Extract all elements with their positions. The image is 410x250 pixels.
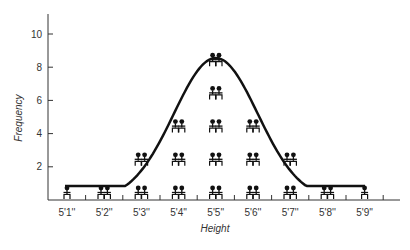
pair-of-people-icon xyxy=(246,152,259,165)
pair-of-people-icon xyxy=(135,186,148,199)
y-ticks: 246810 xyxy=(31,29,53,173)
x-tick-label: 5'6'' xyxy=(245,207,262,218)
y-tick-label: 2 xyxy=(36,161,42,172)
x-tick-label: 5'3'' xyxy=(133,207,150,218)
x-tick-label: 5'4'' xyxy=(170,207,187,218)
pair-of-people-icon xyxy=(172,119,185,132)
pictogram-icons xyxy=(64,53,369,199)
x-tick-label: 5'8'' xyxy=(319,207,336,218)
x-tick-label: 5'9'' xyxy=(356,207,373,218)
pair-of-people-icon xyxy=(284,186,297,199)
y-axis-label: Frequency xyxy=(13,93,24,141)
y-tick-label: 10 xyxy=(31,29,43,40)
pair-of-people-icon xyxy=(172,152,185,165)
x-tick-label: 5'7'' xyxy=(282,207,299,218)
pair-of-people-icon xyxy=(209,152,222,165)
y-tick-label: 4 xyxy=(36,128,42,139)
pair-of-people-icon xyxy=(209,119,222,132)
pair-of-people-icon xyxy=(246,186,259,199)
x-ticks: 5'1''5'2''5'3''5'4''5'5''5'6''5'7''5'8''… xyxy=(59,195,384,218)
pair-of-people-icon xyxy=(321,186,334,199)
x-axis-label: Height xyxy=(201,223,231,234)
y-tick-label: 8 xyxy=(36,62,42,73)
x-tick-label: 5'2'' xyxy=(96,207,113,218)
distribution-curve xyxy=(65,58,365,186)
pair-of-people-icon xyxy=(209,186,222,199)
x-tick-label: 5'1'' xyxy=(59,207,76,218)
pair-of-people-icon xyxy=(98,186,111,199)
pair-of-people-icon xyxy=(246,119,259,132)
person-icon xyxy=(64,186,71,199)
x-tick-label: 5'5'' xyxy=(207,207,224,218)
y-tick-label: 6 xyxy=(36,95,42,106)
pair-of-people-icon xyxy=(172,186,185,199)
pictograph-chart: 246810 5'1''5'2''5'3''5'4''5'5''5'6''5'7… xyxy=(0,0,410,250)
person-icon xyxy=(361,186,368,199)
pair-of-people-icon xyxy=(209,86,222,99)
